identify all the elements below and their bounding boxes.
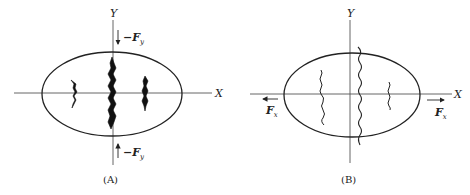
panel-caption-b: (B) [341, 174, 356, 185]
panel-a: X Y −Fy −Fy (A) [14, 7, 224, 185]
crack-left [320, 70, 325, 125]
force-label-bottom: −Fy [123, 146, 145, 161]
y-axis-label: Y [110, 7, 119, 20]
crack-left [71, 80, 77, 108]
y-axis-label: Y [347, 7, 356, 20]
force-label-left: Fx [265, 104, 278, 119]
x-axis-label: X [453, 88, 463, 101]
x-axis-label: X [214, 87, 224, 100]
specimen-ellipse [284, 53, 420, 137]
diagram-canvas: X Y −Fy −Fy (A) X Y Fx [0, 0, 470, 195]
panel-b: X Y Fx Fx (B) [250, 7, 463, 185]
force-label-top: −Fy [123, 31, 145, 46]
crack-right [142, 76, 148, 111]
crack-right [388, 82, 390, 110]
panel-caption-a: (A) [103, 174, 118, 185]
force-label-right: Fx [434, 106, 447, 121]
crack-center [358, 47, 362, 145]
